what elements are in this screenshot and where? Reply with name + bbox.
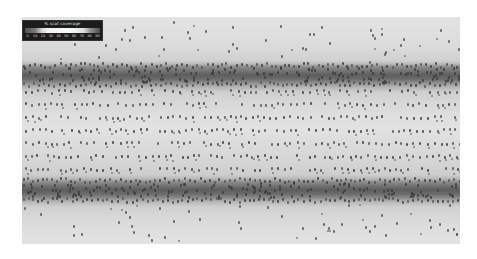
particle: [98, 56, 100, 59]
particle: [303, 142, 305, 145]
legend-tick: 60: [71, 34, 78, 39]
particle: [344, 199, 346, 202]
particle: [165, 155, 167, 158]
particle: [447, 200, 449, 203]
particle: [448, 103, 450, 106]
particle: [240, 227, 242, 230]
particle: [359, 82, 361, 85]
particle: [93, 64, 95, 67]
particle: [269, 117, 271, 120]
particle: [450, 133, 452, 135]
particle: [32, 143, 34, 146]
particle: [258, 198, 260, 201]
particle: [118, 172, 120, 174]
particle: [220, 197, 222, 200]
particle: [64, 89, 66, 92]
particle: [181, 85, 183, 88]
particle: [434, 180, 436, 183]
particle: [260, 104, 262, 107]
particle: [452, 142, 454, 145]
particle: [417, 194, 419, 197]
particle: [159, 179, 161, 182]
particle: [351, 64, 353, 67]
particle: [270, 196, 272, 199]
particle: [317, 177, 319, 180]
particle: [182, 194, 184, 197]
particle: [380, 72, 382, 75]
particle: [172, 160, 174, 162]
particle: [279, 185, 281, 188]
particle: [77, 155, 79, 158]
particle: [43, 82, 45, 85]
particle: [430, 196, 432, 199]
particle: [144, 36, 146, 39]
particle: [314, 69, 316, 72]
particle: [69, 82, 71, 85]
particle: [242, 187, 244, 190]
particle: [133, 231, 135, 234]
particle: [246, 154, 248, 157]
particle: [334, 199, 336, 202]
particle: [53, 155, 55, 158]
particle: [127, 155, 129, 158]
particle: [428, 173, 430, 175]
particle: [434, 84, 436, 87]
particle: [296, 103, 298, 106]
particle: [429, 130, 431, 133]
particle: [105, 184, 107, 187]
particle: [374, 48, 376, 50]
particle: [379, 178, 381, 181]
particle: [417, 184, 419, 187]
particle: [322, 179, 324, 182]
particle: [400, 72, 402, 75]
particle: [407, 200, 409, 203]
particle: [372, 72, 374, 75]
particle: [90, 194, 92, 197]
particle: [70, 156, 72, 159]
particle: [185, 80, 187, 83]
particle: [61, 200, 63, 203]
particle: [224, 180, 226, 183]
particle: [357, 90, 359, 93]
particle: [412, 104, 414, 107]
particle: [298, 179, 300, 182]
particle: [96, 169, 98, 172]
particle: [254, 169, 256, 172]
legend-title: % scaf coverage: [23, 21, 102, 27]
particle: [207, 63, 209, 66]
particle: [151, 239, 153, 242]
particle: [211, 129, 213, 132]
particle: [297, 134, 299, 136]
particle: [392, 130, 394, 133]
particle: [92, 77, 94, 80]
particle: [246, 64, 248, 67]
particle: [342, 62, 344, 65]
particle: [370, 90, 372, 93]
particle: [336, 80, 338, 83]
particle: [156, 65, 158, 68]
particle: [160, 116, 162, 119]
particle: [413, 193, 415, 196]
particle: [217, 83, 219, 86]
particle: [24, 207, 26, 210]
particle: [38, 84, 40, 87]
particle: [109, 76, 111, 79]
particle: [416, 130, 418, 133]
particle: [406, 154, 408, 157]
particle: [201, 199, 203, 202]
particle: [407, 103, 409, 106]
particle: [303, 102, 305, 105]
particle: [80, 84, 82, 87]
legend-gradient-bar: [25, 28, 100, 33]
particle: [133, 74, 135, 77]
particle: [362, 141, 364, 144]
particle: [367, 133, 369, 135]
particle: [269, 184, 271, 187]
particle: [419, 45, 421, 47]
particle: [367, 154, 369, 157]
particle: [45, 115, 47, 118]
particle: [42, 168, 44, 171]
particle: [23, 198, 25, 201]
particle: [402, 201, 404, 204]
particle: [244, 178, 246, 181]
